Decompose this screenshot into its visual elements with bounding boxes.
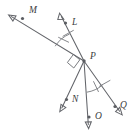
geometry-canvas: M L P N O Q <box>0 0 135 132</box>
point-label-N: N <box>71 94 79 104</box>
point-label-Q: Q <box>120 100 127 110</box>
point-dot-P <box>82 59 85 62</box>
point-label-M: M <box>28 5 38 15</box>
point-dot-O <box>87 115 90 118</box>
point-dot-L <box>64 21 67 24</box>
ray-PL-arrowhead <box>58 13 64 19</box>
ray-PN <box>60 61 84 112</box>
ray-PN-arrowhead <box>60 104 66 111</box>
ray-PM-arrowhead <box>9 15 16 21</box>
point-label-L: L <box>71 17 77 27</box>
point-dot-Q <box>113 105 116 108</box>
right-angle-mark <box>67 54 79 68</box>
point-dot-M <box>21 17 24 20</box>
point-label-P: P <box>89 51 96 61</box>
segment-tick-PL <box>63 30 73 36</box>
ray-PO <box>84 61 91 129</box>
segment-tick-PQ <box>100 80 110 86</box>
ray-PL <box>58 13 84 61</box>
geometry-diagram: M L P N O Q <box>0 0 135 132</box>
point-label-O: O <box>95 111 102 121</box>
point-dot-N <box>65 98 68 101</box>
